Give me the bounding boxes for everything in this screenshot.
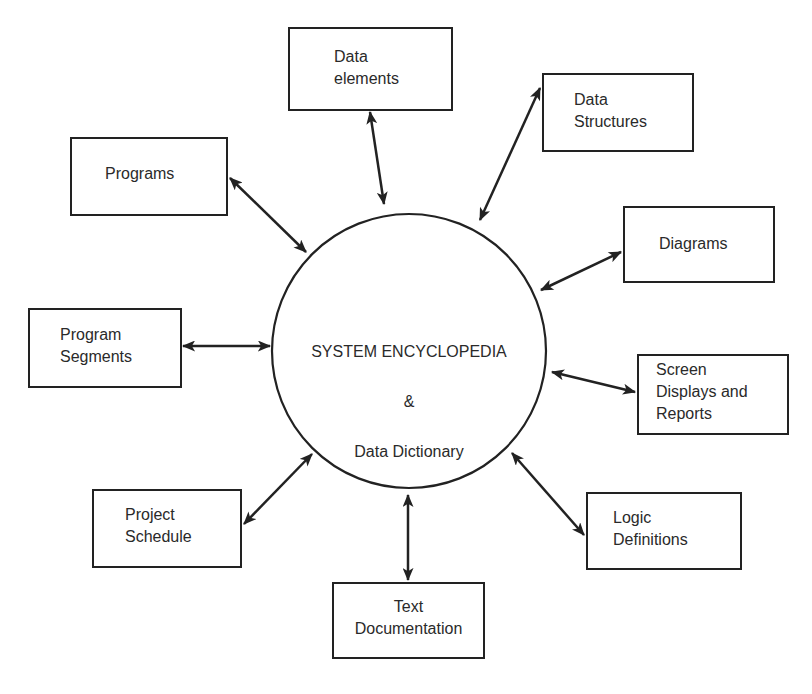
node-label: Project Schedule (125, 504, 192, 548)
center-ampersand: & (272, 389, 546, 414)
node-label: Diagrams (659, 233, 727, 255)
center-subtitle: Data Dictionary (272, 439, 546, 464)
node-label: Programs (105, 163, 174, 185)
edge-data-structures (480, 88, 540, 220)
node-label: Data elements (334, 46, 399, 90)
node-label: Program Segments (60, 324, 132, 368)
node-label: Text Documentation (334, 596, 483, 640)
node-label: Logic Definitions (613, 507, 688, 551)
edge-programs (230, 178, 306, 252)
node-label: Data Structures (574, 89, 647, 133)
system-encyclopedia-diagram: SYSTEM ENCYCLOPEDIA & Data Dictionary Da… (0, 0, 812, 694)
node-text-documentation: Text Documentation (332, 582, 485, 659)
node-programs: Programs (70, 137, 228, 216)
edge-data-elements (370, 112, 384, 204)
edge-screen-displays (552, 372, 635, 392)
node-diagrams: Diagrams (623, 206, 775, 283)
node-screen-displays-reports: Screen Displays and Reports (637, 354, 789, 435)
node-program-segments: Program Segments (28, 308, 182, 388)
center-label: SYSTEM ENCYCLOPEDIA & Data Dictionary (272, 314, 546, 489)
node-logic-definitions: Logic Definitions (586, 492, 742, 570)
node-data-elements: Data elements (288, 27, 453, 111)
edge-diagrams (541, 252, 621, 290)
node-data-structures: Data Structures (542, 73, 694, 152)
center-title: SYSTEM ENCYCLOPEDIA (272, 339, 546, 364)
node-label: Screen Displays and Reports (656, 359, 748, 425)
node-project-schedule: Project Schedule (92, 489, 242, 568)
